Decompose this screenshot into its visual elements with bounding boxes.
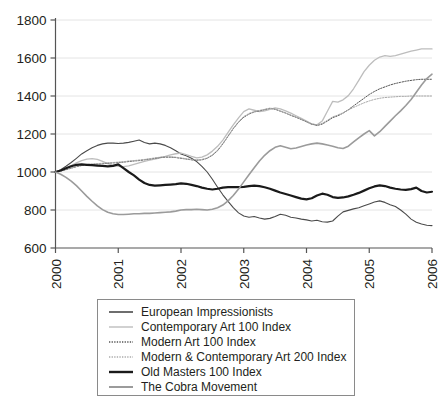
y-tick-label: 1400 bbox=[16, 89, 46, 104]
legend-label: Modern Art 100 Index bbox=[141, 336, 256, 348]
legend-item: Old Masters 100 Index bbox=[108, 364, 354, 379]
y-tick-label: 800 bbox=[24, 203, 47, 218]
y-tick-label: 1000 bbox=[16, 165, 46, 180]
y-tick-label: 1600 bbox=[16, 51, 46, 66]
x-tick-label: 2006 bbox=[425, 259, 440, 289]
x-tick-label: 2005 bbox=[362, 259, 377, 289]
legend-item: European Impressionists bbox=[108, 304, 354, 319]
y-axis-ticks: 60080010001200140016001800 bbox=[16, 13, 55, 256]
legend-swatch-dotted-dark-icon bbox=[108, 336, 134, 348]
y-tick-label: 600 bbox=[24, 241, 47, 256]
x-tick-label: 2000 bbox=[49, 259, 64, 289]
y-tick-label: 1800 bbox=[16, 13, 46, 28]
chart-figure: 6008001000120014001600180020002001200220… bbox=[0, 0, 445, 417]
x-tick-label: 2002 bbox=[174, 259, 189, 289]
legend-item: Contemporary Art 100 Index bbox=[108, 319, 354, 334]
chart-legend: European ImpressionistsContemporary Art … bbox=[97, 299, 355, 396]
legend-item: The Cobra Movement bbox=[108, 379, 354, 394]
legend-label: Contemporary Art 100 Index bbox=[141, 321, 291, 333]
series-line-5 bbox=[56, 74, 433, 214]
legend-label: European Impressionists bbox=[141, 306, 273, 318]
series-line-1 bbox=[56, 49, 433, 172]
legend-swatch-thin-dark-icon bbox=[108, 306, 134, 318]
legend-swatch-thin-light-icon bbox=[108, 321, 134, 333]
x-tick-label: 2004 bbox=[300, 259, 315, 290]
series-line-2 bbox=[56, 79, 433, 172]
legend-item: Modern & Contemporary Art 200 Index bbox=[108, 349, 354, 364]
legend-label: Modern & Contemporary Art 200 Index bbox=[141, 351, 346, 363]
x-axis-ticks: 2000200120022003200420052006 bbox=[49, 248, 441, 289]
y-tick-label: 1200 bbox=[16, 127, 46, 142]
legend-swatch-thick-black-icon bbox=[108, 366, 134, 378]
legend-label: The Cobra Movement bbox=[141, 381, 257, 393]
legend-swatch-dotted-light-icon bbox=[108, 351, 134, 363]
legend-item: Modern Art 100 Index bbox=[108, 334, 354, 349]
legend-swatch-medium-gray-icon bbox=[108, 381, 134, 393]
x-tick-label: 2003 bbox=[237, 259, 252, 289]
x-tick-label: 2001 bbox=[111, 259, 126, 289]
series-group bbox=[56, 49, 433, 226]
legend-label: Old Masters 100 Index bbox=[141, 366, 262, 378]
